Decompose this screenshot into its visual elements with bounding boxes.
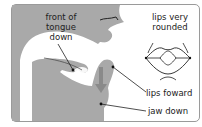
tongue-label: front of tongue down (38, 12, 84, 42)
lips-rounded-label-line2: rounded (150, 22, 190, 32)
lips-rounded-label: lips very rounded (150, 12, 190, 32)
lips-forward-label: lips foward (146, 88, 192, 98)
tongue-label-line1: front of (38, 12, 84, 22)
tongue-label-line2: tongue (38, 22, 84, 32)
lips-rounded-label-line1: lips very (150, 12, 190, 22)
jaw-down-label: jaw down (148, 106, 188, 116)
tongue-label-line3: down (38, 32, 84, 42)
